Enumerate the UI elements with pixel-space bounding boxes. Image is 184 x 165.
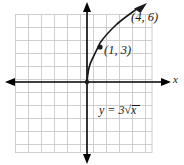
- y-axis-bottom-arrowhead: [83, 154, 91, 164]
- point-marker-1-3: [97, 44, 102, 49]
- equation-lhs: y: [99, 103, 104, 117]
- equation-equals: =: [107, 103, 115, 117]
- x-axis-left-arrowhead: [5, 78, 15, 86]
- point-marker-origin: [85, 80, 89, 84]
- point-label-1-3: (1, 3): [104, 44, 131, 57]
- radical-vinculum: [132, 105, 140, 106]
- x-axis-label: x: [173, 74, 178, 85]
- graph-figure: (4, 6) (1, 3) x y = 3√x: [0, 0, 184, 165]
- y-axis-top-arrowhead: [83, 2, 91, 12]
- radical-sign-icon: √x: [124, 103, 136, 116]
- point-label-4-6: (4, 6): [131, 11, 158, 24]
- equation-label: y = 3√x: [99, 103, 136, 116]
- coordinate-plane: [0, 0, 184, 165]
- x-axis-right-arrowhead: [161, 78, 171, 86]
- grid-lines: [15, 14, 152, 153]
